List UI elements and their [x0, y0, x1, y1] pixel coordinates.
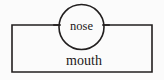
nose-label: nose: [70, 19, 93, 33]
mouth-label: mouth: [66, 53, 102, 68]
diagram-canvas: nose mouth: [0, 0, 164, 80]
face-diagram: nose mouth: [0, 0, 164, 80]
